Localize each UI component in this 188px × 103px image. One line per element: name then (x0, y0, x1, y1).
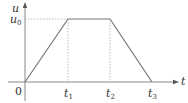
x-axis-arrow-icon (173, 80, 179, 84)
t3-tick-label: t3 (148, 88, 157, 101)
trapezoid-curve (25, 19, 152, 82)
t1-sub: 1 (68, 93, 72, 101)
u0-tick-label: u0 (10, 14, 22, 27)
t2-tick-label: t2 (106, 88, 115, 101)
t3-sub: 3 (152, 93, 156, 101)
origin-label: 0 (15, 86, 22, 97)
t2-sub: 2 (110, 93, 114, 101)
u0-sub: 0 (17, 19, 21, 27)
x-axis-label: t (181, 76, 185, 87)
trapezoid-velocity-chart (0, 0, 188, 103)
t1-tick-label: t1 (64, 88, 73, 101)
y-axis-arrow-icon (23, 2, 27, 8)
